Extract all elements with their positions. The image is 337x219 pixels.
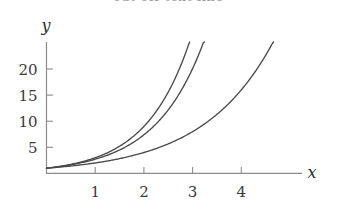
y-axis-ticks: [47, 69, 54, 147]
x-tick-label: 1: [90, 183, 100, 201]
y-axis-tick-labels: 5101520: [18, 61, 37, 157]
x-axis-label: x: [307, 163, 316, 182]
y-tick-label: 5: [28, 139, 38, 157]
curve-3-x: [47, 42, 190, 168]
axes-group: [47, 42, 303, 174]
y-tick-label: 10: [18, 113, 37, 131]
x-tick-label: 2: [139, 183, 149, 201]
y-tick-label: 15: [18, 87, 37, 105]
y-axis-label: y: [40, 16, 51, 35]
exponential-curves-plot: 5101520 1234 x y: [0, 0, 337, 219]
clipped-header-text: cut off text line: [0, 0, 337, 3]
x-tick-label: 3: [188, 183, 198, 201]
data-curves-group: [47, 42, 274, 168]
x-axis-tick-labels: 1234: [90, 183, 246, 201]
curve-e-x: [47, 42, 205, 168]
x-tick-label: 4: [237, 183, 247, 201]
chart-container: cut off text line 5101520 1234 x y: [0, 0, 337, 219]
y-tick-label: 20: [18, 61, 37, 79]
x-axis-ticks: [95, 167, 241, 174]
